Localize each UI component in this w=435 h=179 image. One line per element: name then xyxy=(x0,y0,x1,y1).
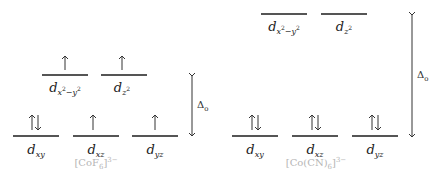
energy-level-dxy xyxy=(232,135,278,137)
energy-level-dyz xyxy=(352,135,398,137)
spin-pair-icon xyxy=(372,115,378,130)
delta-o-label: Δo xyxy=(197,99,208,113)
spin-pair-icon xyxy=(312,115,318,130)
orbital-label-dxy: dxy xyxy=(27,143,44,159)
orbital-label-dyz: dyz xyxy=(366,143,383,159)
energy-level-dz2 xyxy=(101,74,147,76)
complex-label: [Co(CN)6]3− xyxy=(286,156,346,171)
orbital-label-dx2y2: dx2−y2 xyxy=(49,81,81,97)
orbital-label-dx2y2: dx2−y2 xyxy=(268,20,300,36)
energy-level-dxz xyxy=(292,135,338,137)
spin-pair-icon xyxy=(32,115,38,130)
energy-level-dx2y2 xyxy=(261,13,307,15)
crystal-field-diagram: dx2−y2 dz2 dxy dxz dyz Δo [CoF6]3− dx2−y… xyxy=(0,0,435,179)
energy-level-dyz xyxy=(132,135,178,137)
energy-level-dxy xyxy=(13,135,59,137)
energy-level-dz2 xyxy=(321,13,367,15)
energy-level-dxz xyxy=(73,135,119,137)
orbital-label-dyz: dyz xyxy=(146,143,163,159)
delta-o-label: Δo xyxy=(417,69,428,83)
complex-label: [CoF6]3− xyxy=(74,156,117,171)
spin-pair-icon xyxy=(252,115,258,130)
orbital-label-dz2: dz2 xyxy=(336,20,352,36)
orbital-label-dxy: dxy xyxy=(246,143,263,159)
orbital-label-dz2: dz2 xyxy=(114,81,130,97)
energy-level-dx2y2 xyxy=(42,74,88,76)
